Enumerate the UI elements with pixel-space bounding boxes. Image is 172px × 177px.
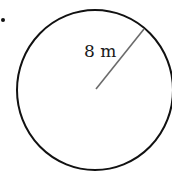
radius-label: 8 m [84, 41, 116, 61]
bullet-dot [1, 18, 5, 22]
circle-diagram: 8 m [0, 0, 172, 177]
circle-outline [17, 10, 172, 170]
